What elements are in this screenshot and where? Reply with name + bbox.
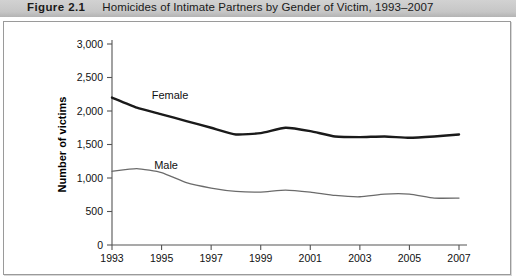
figure-container: Figure 2.1Homicides of Intimate Partners… [0,0,516,279]
y-tick-label: 1,500 [77,138,103,150]
y-tick-label: 500 [85,205,103,217]
chart-panel: 05001,0001,5002,0002,5003,00019931995199… [3,21,511,275]
series-line-male [112,169,459,199]
x-tick-label: 1993 [100,252,124,264]
series-label-female: Female [152,89,189,101]
x-tick-label: 1999 [249,252,273,264]
y-axis-title: Number of victims [56,97,68,193]
x-tick-label: 2007 [447,252,471,264]
x-tick-label: 2005 [398,252,422,264]
y-tick-label: 3,000 [77,38,103,50]
figure-caption: Figure 2.1Homicides of Intimate Partners… [27,1,434,13]
x-tick-label: 2003 [348,252,372,264]
x-tick-label: 1995 [150,252,174,264]
y-tick-label: 2,000 [77,105,103,117]
y-tick-label: 0 [97,239,103,251]
figure-caption-band: Figure 2.1Homicides of Intimate Partners… [0,0,516,17]
y-tick-label: 2,500 [77,71,103,83]
x-tick-label: 2001 [299,252,323,264]
figure-number: Figure 2.1 [27,1,85,13]
figure-caption-text: Homicides of Intimate Partners by Gender… [102,1,433,13]
series-label-male: Male [154,159,178,171]
series-line-female [112,98,459,138]
y-tick-label: 1,000 [77,172,103,184]
line-chart: 05001,0001,5002,0002,5003,00019931995199… [4,22,510,274]
x-tick-label: 1997 [199,252,223,264]
